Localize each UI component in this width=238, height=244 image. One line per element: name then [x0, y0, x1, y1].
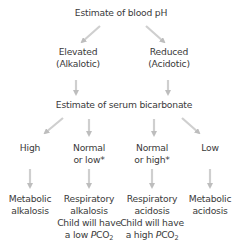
node-line: Child will have	[57, 217, 121, 229]
outcome-respiratory-acidosis: Respiratory acidosis Child will have a h…	[120, 193, 184, 241]
root-label: Estimate of blood pH	[75, 7, 167, 19]
arrow-bicarb-to-low	[182, 118, 199, 133]
node-line: (Alkalotic)	[56, 58, 100, 70]
node-line: Reduced	[148, 46, 190, 58]
node-bicarb-low: Low	[201, 142, 219, 154]
node-line: Respiratory	[57, 193, 121, 205]
arrow-root-to-elevated	[82, 26, 100, 42]
node-line: or low*	[73, 154, 105, 166]
node-line: Metabolic	[189, 193, 232, 205]
node-line: Respiratory	[120, 193, 184, 205]
node-line: Metabolic	[9, 193, 52, 205]
node-bicarb-high: High	[20, 142, 40, 154]
node-line: High	[20, 142, 40, 154]
node-line: alkalosis	[9, 205, 52, 217]
node-elevated-alkalotic: Elevated (Alkalotic)	[56, 46, 100, 70]
node-line: Child will have	[120, 217, 184, 229]
bicarbonate-label: Estimate of serum bicarbonate	[56, 99, 192, 111]
outcome-metabolic-alkalosis: Metabolic alkalosis	[9, 193, 52, 217]
pco2-prefix: a high	[126, 229, 156, 240]
arrow-root-to-reduced	[146, 26, 164, 42]
pco2-co: CO	[161, 229, 174, 240]
node-serum-bicarbonate: Estimate of serum bicarbonate	[56, 99, 192, 111]
node-bicarb-normal-or-high: Normal or high*	[134, 142, 169, 166]
node-reduced-acidotic: Reduced (Acidotic)	[148, 46, 190, 70]
node-line: Low	[201, 142, 219, 154]
pco2-line: a low PCO2	[57, 229, 121, 241]
node-bicarb-normal-or-low: Normal or low*	[73, 142, 105, 166]
node-line: Normal	[134, 142, 169, 154]
pco2-line: a high PCO2	[120, 229, 184, 241]
node-line: or high*	[134, 154, 169, 166]
node-line: Elevated	[56, 46, 100, 58]
pco2-co: CO	[96, 229, 109, 240]
outcome-metabolic-acidosis: Metabolic acidosis	[189, 193, 232, 217]
pco2-subscript: 2	[109, 234, 113, 242]
node-line: acidosis	[189, 205, 232, 217]
pco2-subscript: 2	[174, 234, 178, 242]
pco2-prefix: a low	[65, 229, 91, 240]
node-line: Normal	[73, 142, 105, 154]
arrow-bicarb-to-high	[45, 118, 63, 133]
node-line: alkalosis	[57, 205, 121, 217]
node-line: (Acidotic)	[148, 58, 190, 70]
outcome-respiratory-alkalosis: Respiratory alkalosis Child will have a …	[57, 193, 121, 241]
node-line: acidosis	[120, 205, 184, 217]
root-node-blood-ph: Estimate of blood pH	[75, 7, 167, 19]
